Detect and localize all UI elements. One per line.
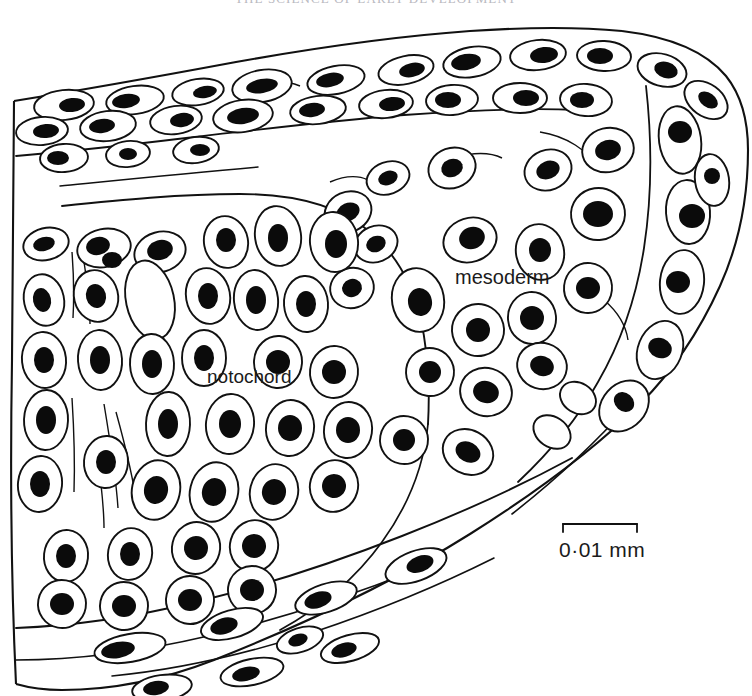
cell bbox=[305, 61, 367, 100]
cell bbox=[130, 671, 193, 696]
cell bbox=[577, 122, 638, 177]
cell bbox=[104, 525, 156, 584]
cell bbox=[19, 330, 69, 390]
cell bbox=[435, 420, 502, 483]
scale-bar bbox=[563, 524, 637, 532]
cell bbox=[82, 435, 130, 490]
cell bbox=[376, 412, 432, 468]
cell bbox=[576, 40, 631, 72]
cell bbox=[304, 454, 364, 517]
cell bbox=[170, 75, 225, 109]
scale-bar-label: 0·01 mm bbox=[559, 538, 645, 562]
cell bbox=[41, 528, 90, 584]
cell bbox=[68, 265, 123, 326]
cell bbox=[634, 48, 691, 93]
cell bbox=[262, 397, 317, 459]
running-head: THE SCIENCE OF EARLY DEVELOPMENT bbox=[0, 0, 752, 5]
cell bbox=[273, 621, 326, 659]
cell bbox=[76, 329, 124, 392]
label-mesoderm: mesoderm bbox=[455, 266, 549, 289]
cell bbox=[423, 141, 482, 195]
cell bbox=[509, 37, 568, 73]
cell bbox=[446, 298, 509, 361]
cell bbox=[15, 454, 65, 514]
cell bbox=[307, 344, 360, 401]
cell bbox=[493, 83, 547, 113]
figure-panel: THE SCIENCE OF EARLY DEVELOPMENT bbox=[0, 0, 752, 696]
cell bbox=[92, 628, 168, 668]
cell bbox=[362, 155, 414, 200]
cell bbox=[244, 459, 304, 525]
cell bbox=[145, 391, 191, 456]
label-notochord: notochord bbox=[207, 366, 292, 388]
cell bbox=[126, 456, 185, 525]
cell bbox=[454, 362, 517, 422]
cell-group-notochord bbox=[15, 203, 375, 634]
cell bbox=[15, 115, 69, 147]
cell bbox=[203, 392, 257, 457]
cell bbox=[181, 265, 234, 328]
cell bbox=[96, 578, 153, 635]
cell bbox=[39, 142, 89, 173]
cell bbox=[19, 270, 69, 329]
cell bbox=[318, 627, 383, 669]
cell bbox=[438, 211, 503, 270]
cell bbox=[105, 139, 151, 169]
cell bbox=[23, 389, 69, 450]
cell bbox=[403, 345, 457, 399]
cell bbox=[183, 457, 244, 527]
section-drawing bbox=[0, 0, 752, 696]
cell bbox=[251, 203, 305, 269]
cell bbox=[200, 213, 252, 272]
cell bbox=[291, 575, 361, 621]
cell bbox=[282, 275, 330, 334]
cell bbox=[441, 42, 503, 82]
cell bbox=[289, 93, 348, 128]
cell bbox=[568, 184, 629, 243]
cell bbox=[518, 142, 577, 197]
cell bbox=[218, 653, 286, 692]
cell bbox=[376, 50, 437, 89]
cell bbox=[527, 408, 577, 455]
cell bbox=[505, 290, 558, 347]
cell bbox=[657, 248, 707, 316]
cell bbox=[562, 261, 615, 316]
cell bbox=[74, 224, 135, 272]
cell bbox=[559, 82, 613, 118]
cell bbox=[129, 333, 175, 394]
cell bbox=[20, 223, 72, 265]
cell bbox=[628, 314, 691, 386]
cell bbox=[231, 268, 281, 332]
cell bbox=[166, 517, 225, 579]
cell bbox=[320, 399, 375, 461]
cell bbox=[387, 264, 449, 336]
